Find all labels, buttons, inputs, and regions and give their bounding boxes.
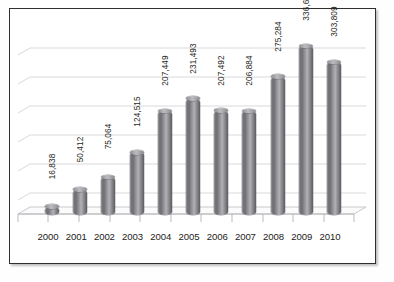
bar-series: 16,83850,41275,064124,515207,449231,4932… <box>38 39 348 215</box>
chart-page: 16,83850,41275,064124,515207,449231,4932… <box>0 0 394 282</box>
bar-slot: 275,284 <box>264 39 292 215</box>
bar-slot: 206,884 <box>235 39 263 215</box>
bar-slot: 207,449 <box>151 39 179 215</box>
bar-value-label: 303,809 <box>330 0 339 57</box>
bar-slot: 16,838 <box>38 39 66 215</box>
bar-slot: 75,064 <box>94 39 122 215</box>
bar[interactable] <box>158 111 172 215</box>
bar-value-label: 207,492 <box>217 35 226 105</box>
bar-slot: 303,809 <box>320 39 348 215</box>
bar-value-label: 75,064 <box>104 102 113 172</box>
bar[interactable] <box>327 62 341 215</box>
bar[interactable] <box>73 190 87 215</box>
bar-value-label: 207,449 <box>160 35 169 105</box>
bar-value-label: 16,838 <box>48 131 57 201</box>
bar-slot: 231,493 <box>179 39 207 215</box>
bar[interactable] <box>214 111 228 215</box>
bar-value-label: 231,493 <box>189 23 198 93</box>
bar-slot: 50,412 <box>66 39 94 215</box>
bar-slot: 336,655 <box>292 39 320 215</box>
bar-value-label: 206,884 <box>245 35 254 105</box>
bar-value-label: 124,515 <box>132 77 141 147</box>
x-axis-labels: 2000200120022003200420052006200720082009… <box>34 231 352 247</box>
bar[interactable] <box>242 111 256 215</box>
bar[interactable] <box>101 177 115 215</box>
bar[interactable] <box>45 207 59 215</box>
x-axis-label: 2010 <box>313 231 347 242</box>
axis-ticks <box>18 214 354 222</box>
chart-frame: 16,83850,41275,064124,515207,449231,4932… <box>9 8 376 264</box>
bar-value-label: 336,655 <box>301 0 310 40</box>
plot-area: 16,83850,41275,064124,515207,449231,4932… <box>10 9 375 263</box>
bar[interactable] <box>186 99 200 215</box>
bar-slot: 124,515 <box>123 39 151 215</box>
bar-value-label: 275,284 <box>273 1 282 71</box>
bar[interactable] <box>130 152 144 215</box>
bar[interactable] <box>271 77 285 215</box>
bar[interactable] <box>299 46 313 215</box>
bar-slot: 207,492 <box>207 39 235 215</box>
bar-value-label: 50,412 <box>76 114 85 184</box>
